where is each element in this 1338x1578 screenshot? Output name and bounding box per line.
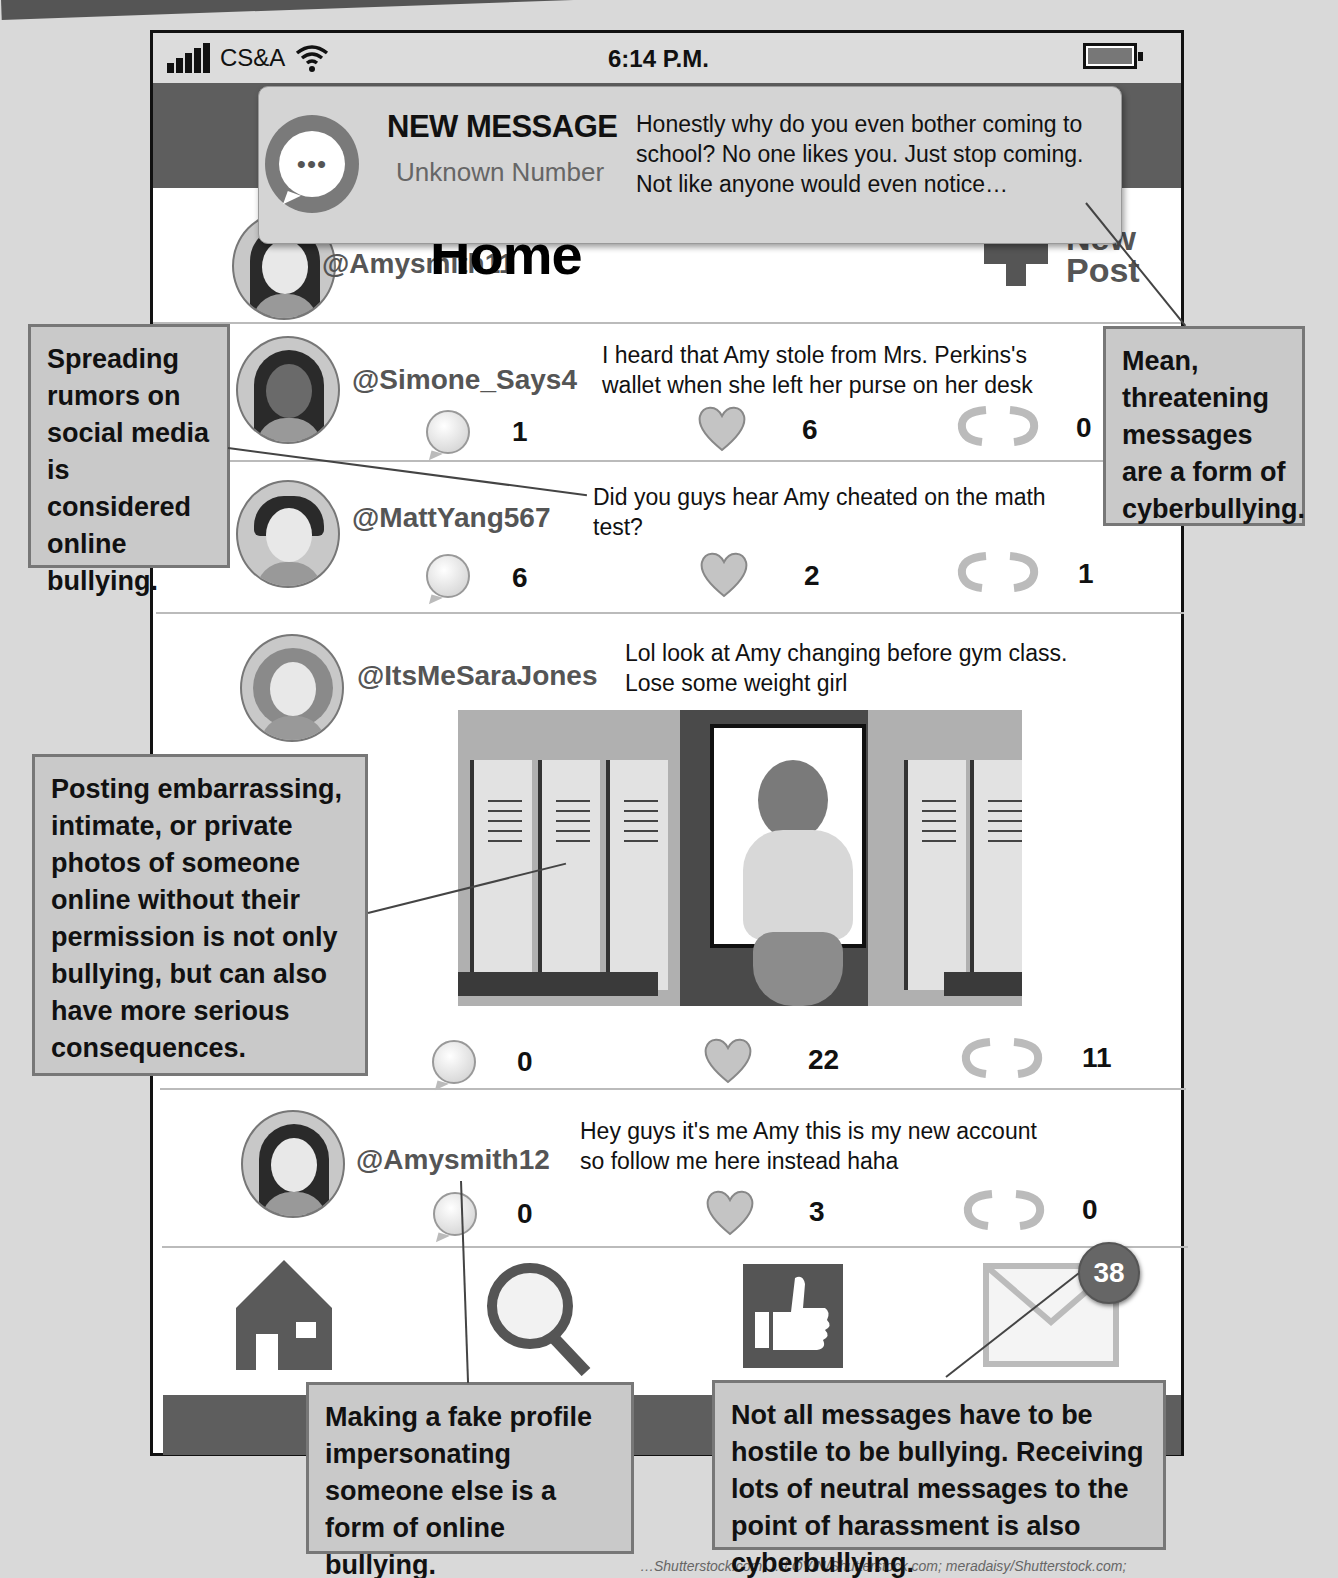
locker-room-photo[interactable] xyxy=(458,710,1022,1006)
like-count: 3 xyxy=(809,1196,825,1228)
repost-count: 0 xyxy=(1082,1194,1098,1226)
heart-icon[interactable] xyxy=(702,1034,754,1086)
heart-icon[interactable] xyxy=(696,402,748,454)
status-bar: CS&A 6:14 P.M. xyxy=(153,33,1181,83)
post-text: I heard that Amy stole from Mrs. Perkins… xyxy=(602,340,1072,400)
heart-icon[interactable] xyxy=(704,1186,756,1238)
divider xyxy=(155,460,1183,462)
callout-rumors: Spreading rumors on social media is cons… xyxy=(28,324,230,568)
post-text: Lol look at Amy changing before gym clas… xyxy=(625,638,1105,698)
repost-icon[interactable] xyxy=(956,550,1040,594)
divider xyxy=(153,322,1181,324)
repost-icon[interactable] xyxy=(956,404,1040,448)
post-handle[interactable]: @MattYang567 xyxy=(352,502,550,534)
notification-message: Honestly why do you even bother coming t… xyxy=(636,109,1106,199)
divider xyxy=(160,1088,1186,1090)
like-count: 22 xyxy=(808,1044,839,1076)
avatar[interactable] xyxy=(236,480,340,588)
search-icon[interactable] xyxy=(486,1262,594,1376)
thumbs-up-icon[interactable] xyxy=(743,1264,843,1368)
notification-title: NEW MESSAGE xyxy=(387,109,617,145)
avatar[interactable] xyxy=(240,634,344,742)
notification-sender: Unknown Number xyxy=(396,157,604,188)
comment-icon[interactable] xyxy=(433,1192,477,1236)
repost-icon[interactable] xyxy=(960,1036,1044,1080)
comment-count: 6 xyxy=(512,562,528,594)
callout-photos: Posting embarrassing, intimate, or priva… xyxy=(32,754,368,1076)
comment-icon[interactable] xyxy=(426,554,470,598)
new-message-notification[interactable]: ••• NEW MESSAGE Unknown Number Honestly … xyxy=(258,86,1122,244)
like-count: 6 xyxy=(802,414,818,446)
divider xyxy=(156,612,1184,614)
signal-bars-icon xyxy=(167,43,210,73)
repost-count: 11 xyxy=(1082,1042,1112,1074)
post-handle[interactable]: @Simone_Says4 xyxy=(352,364,577,396)
callout-threatening: Mean, threatening messages are a form of… xyxy=(1103,326,1305,526)
like-count: 2 xyxy=(804,560,820,592)
comment-icon[interactable] xyxy=(426,410,470,454)
repost-count: 1 xyxy=(1078,558,1094,590)
mail-badge: 38 xyxy=(1078,1242,1140,1304)
post-text: Hey guys it's me Amy this is my new acco… xyxy=(580,1116,1060,1176)
post-text: Did you guys hear Amy cheated on the mat… xyxy=(593,482,1073,542)
repost-count: 0 xyxy=(1076,412,1092,444)
battery-icon xyxy=(1083,43,1137,69)
divider xyxy=(162,1246,1188,1248)
avatar[interactable] xyxy=(236,336,340,444)
home-icon[interactable] xyxy=(234,1258,334,1372)
comment-count: 0 xyxy=(517,1046,533,1078)
callout-fake-profile: Making a fake profile impersonating some… xyxy=(306,1382,634,1554)
wifi-icon xyxy=(295,43,329,73)
decorative-top-band xyxy=(0,0,901,20)
carrier-name: CS&A xyxy=(220,44,285,72)
comment-count: 1 xyxy=(512,416,528,448)
chat-bubble-icon: ••• xyxy=(265,115,359,213)
avatar[interactable] xyxy=(241,1110,345,1218)
post-handle[interactable]: @Amysmith12 xyxy=(356,1144,550,1176)
heart-icon[interactable] xyxy=(698,548,750,600)
callout-neutral-messages: Not all messages have to be hostile to b… xyxy=(712,1380,1166,1550)
post-handle[interactable]: @ItsMeSaraJones xyxy=(357,660,598,692)
comment-count: 0 xyxy=(517,1198,533,1230)
comment-icon[interactable] xyxy=(432,1040,476,1084)
clock: 6:14 P.M. xyxy=(608,45,709,73)
repost-icon[interactable] xyxy=(962,1188,1046,1232)
